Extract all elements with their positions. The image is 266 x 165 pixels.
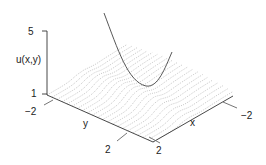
surface-plot <box>0 0 266 165</box>
z-tick-bottom: 1 <box>31 89 37 99</box>
overlay-curve <box>104 13 172 86</box>
y-axis <box>44 95 153 142</box>
surface-contours <box>47 45 233 143</box>
y-tick-left: −2 <box>25 107 36 117</box>
x-tick-right: −2 <box>241 111 252 121</box>
y-axis-label: y <box>83 119 88 129</box>
x-axis-label: x <box>190 118 195 128</box>
z-axis <box>42 31 47 95</box>
z-axis-label: u(x,y) <box>16 55 41 65</box>
x-tick-left: 2 <box>156 146 162 156</box>
y-tick-right: 2 <box>105 145 111 155</box>
z-tick-top: 5 <box>28 27 34 37</box>
